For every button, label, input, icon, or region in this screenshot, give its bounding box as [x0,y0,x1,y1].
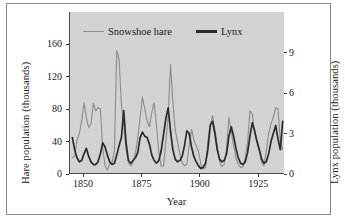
x-axis-tick [199,174,200,177]
y-axis-right-tick-label: 0 [289,168,311,179]
x-axis-tick [258,174,259,177]
x-axis-tick-label: 1925 [238,178,278,189]
y-axis-left-tick [66,174,69,175]
y-axis-right-tick [284,133,287,134]
y-axis-left-tick [66,141,69,142]
x-axis-tick-label: 1900 [180,178,220,189]
plot-panel [69,12,284,174]
y-axis-left-tick [66,44,69,45]
hare-series-line [72,51,282,170]
y-axis-left-tick-label: 0 [28,168,62,179]
y-axis-right-tick-label: 6 [289,87,311,98]
y-axis-left-tick-label: 80 [28,103,62,114]
x-axis-tick [83,174,84,177]
y-axis-right-tick [284,93,287,94]
y-axis-right-tick [284,52,287,53]
y-axis-right-tick [284,174,287,175]
x-axis-tick [141,174,142,177]
x-axis-title: Year [7,196,345,207]
x-axis-tick-label: 1850 [63,178,103,189]
x-axis-tick-label: 1875 [121,178,161,189]
y-axis-left-tick-label: 120 [28,71,62,82]
y-axis-left-tick [66,109,69,110]
figure-frame: Hare population (thousands) Lynx populat… [6,3,331,215]
y-axis-right-tick-label: 9 [289,47,311,58]
y-axis-right-tick-label: 3 [289,128,311,139]
y-axis-left-tick-label: 40 [28,136,62,147]
y-axis-left-tick [66,76,69,77]
y-axis-right-title: Lynx population (thousands) [329,61,340,184]
y-axis-left-tick-label: 160 [28,38,62,49]
plot-lines [70,12,285,174]
